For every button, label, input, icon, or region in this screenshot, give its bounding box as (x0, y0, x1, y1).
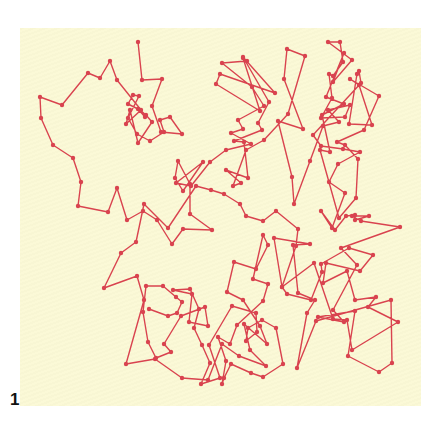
walk-vertex-dot (336, 162, 340, 166)
walk-vertex-dot (229, 362, 233, 366)
walk-vertex-dot (348, 103, 352, 107)
walk-vertex-dot (142, 298, 146, 302)
walk-vertex-dot (189, 184, 193, 188)
walk-vertex-dot (174, 295, 178, 299)
walk-vertex-dot (231, 184, 235, 188)
walk-vertex-dot (169, 350, 173, 354)
figure-label: 1 (10, 390, 19, 410)
walk-vertex-dot (76, 204, 80, 208)
walk-vertex-dot (343, 191, 347, 195)
walk-vertex-dot (180, 132, 184, 136)
walk-vertex-dot (222, 192, 226, 196)
walk-vertex-dot (241, 55, 245, 59)
walk-vertex-dot (260, 318, 264, 322)
walk-vertex-dot (235, 323, 239, 327)
walk-vertex-dot (305, 311, 309, 315)
walk-vertex-dot (200, 343, 204, 347)
walk-vertex-dot (316, 315, 320, 319)
walk-vertex-dot (150, 120, 154, 124)
walk-vertex-dot (319, 144, 323, 148)
walk-vertex-dot (236, 118, 240, 122)
walk-vertex-dot (181, 227, 185, 231)
walk-vertex-dot (160, 77, 164, 81)
walk-vertex-dot (358, 269, 362, 273)
walk-vertex-dot (51, 143, 55, 147)
walk-vertex-dot (207, 343, 211, 347)
walk-vertex-dot (218, 376, 222, 380)
walk-vertex-dot (358, 150, 362, 154)
walk-vertex-dot (311, 133, 315, 137)
walk-vertex-dot (244, 148, 248, 152)
walk-vertex-dot (244, 339, 248, 343)
walk-vertex-dot (337, 216, 341, 220)
walk-vertex-dot (359, 81, 363, 85)
walk-vertex-dot (261, 299, 265, 303)
walk-vertex-dot (276, 119, 280, 123)
walk-vertex-dot (319, 209, 323, 213)
walk-vertex-dot (274, 209, 278, 213)
walk-vertex-dot (220, 61, 224, 65)
walk-vertex-dot (166, 226, 170, 230)
walk-vertex-dot (244, 214, 248, 218)
walk-vertex-dot (267, 100, 271, 104)
walk-vertex-dot (188, 287, 192, 291)
walk-vertex-dot (353, 309, 357, 313)
walk-vertex-dot (294, 244, 298, 248)
walk-vertex-dot (355, 263, 359, 267)
walk-vertex-dot (222, 376, 226, 380)
walk-vertex-dot (176, 159, 180, 163)
walk-vertex-dot (208, 361, 212, 365)
walk-vertex-dot (320, 270, 324, 274)
walk-vertex-dot (125, 218, 129, 222)
walk-vertex-dot (262, 104, 266, 108)
walk-vertex-dot (367, 214, 371, 218)
walk-vertex-dot (331, 80, 335, 84)
walk-vertex-dot (286, 112, 290, 116)
walk-vertex-dot (350, 58, 354, 62)
walk-vertex-dot (242, 322, 246, 326)
walk-vertex-dot (194, 184, 198, 188)
walk-vertex-dot (168, 115, 172, 119)
walk-vertex-dot (131, 93, 135, 97)
walk-vertex-dot (197, 307, 201, 311)
walk-vertex-dot (258, 324, 262, 328)
walk-vertex-dot (79, 180, 83, 184)
walk-vertex-dot (192, 326, 196, 330)
walk-vertex-dot (136, 141, 140, 145)
walk-vertex-dot (274, 326, 278, 330)
walk-vertex-dot (241, 127, 245, 131)
walk-vertex-dot (248, 348, 252, 352)
walk-vertex-dot (180, 376, 184, 380)
walk-vertex-dot (115, 78, 119, 82)
walk-vertex-dot (254, 267, 258, 271)
walk-vertex-dot (366, 305, 370, 309)
walk-vertex-dot (345, 318, 349, 322)
walk-vertex-dot (357, 69, 361, 73)
walk-vertex-dot (261, 233, 265, 237)
walk-vertex-dot (161, 284, 165, 288)
walk-vertex-dot (339, 246, 343, 250)
walk-vertex-dot (71, 156, 75, 160)
walk-vertex-dot (239, 181, 243, 185)
walk-vertex-dot (341, 147, 345, 151)
walk-vertex-dot (264, 364, 268, 368)
walk-vertex-dot (309, 298, 313, 302)
walk-vertex-dot (342, 102, 346, 106)
walk-vertex-dot (141, 209, 145, 213)
walk-vertex-dot (171, 288, 175, 292)
walk-vertex-dot (314, 319, 318, 323)
walk-vertex-dot (321, 124, 325, 128)
walk-vertex-dot (262, 138, 266, 142)
walk-vertex-dot (162, 342, 166, 346)
walk-vertices (38, 40, 402, 386)
walk-vertex-dot (330, 96, 334, 100)
walk-segments (40, 42, 400, 384)
walk-vertex-dot (324, 261, 328, 265)
walk-vertex-dot (250, 85, 254, 89)
walk-vertex-dot (162, 130, 166, 134)
walk-vertex-dot (216, 335, 220, 339)
walk-vertex-dot (139, 108, 143, 112)
walk-vertex-dot (266, 282, 270, 286)
walk-vertex-dot (282, 77, 286, 81)
random-walk-plot (0, 0, 447, 431)
